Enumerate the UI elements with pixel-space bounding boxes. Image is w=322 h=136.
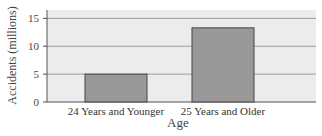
y-tick-label: 5 [34, 68, 40, 80]
bar [192, 28, 254, 102]
bar [85, 74, 147, 102]
bar-chart: 05101524 Years and Younger25 Years and O… [0, 0, 322, 136]
x-tick-label: 25 Years and Older [181, 105, 266, 117]
x-tick-label: 24 Years and Younger [68, 105, 165, 117]
y-axis-label: Accidents (millions) [5, 6, 20, 106]
y-tick-label: 15 [28, 12, 40, 24]
x-axis-label: Age [167, 115, 189, 131]
y-tick-label: 10 [28, 40, 40, 52]
chart-plot: 05101524 Years and Younger25 Years and O… [0, 0, 322, 136]
y-tick-label: 0 [34, 96, 40, 108]
